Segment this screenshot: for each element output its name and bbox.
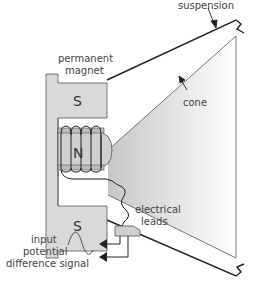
terminal-arrow-bottom (99, 252, 107, 262)
pole-n: N (73, 145, 83, 161)
label-permanent: permanent (58, 53, 113, 64)
label-leads: leads (141, 216, 168, 227)
label-electrical: electrical (135, 204, 181, 215)
cone (108, 36, 236, 258)
label-difference-signal: difference signal (6, 258, 89, 269)
pole-bottom-s: S (73, 218, 82, 234)
pole-top-s: S (73, 93, 82, 109)
label-suspension: suspension (178, 0, 234, 11)
label-cone: cone (183, 97, 207, 108)
label-magnet: magnet (65, 65, 104, 76)
label-potential: potential (23, 246, 67, 257)
loudspeaker-diagram: suspension permanent magnet cone electri… (0, 0, 256, 281)
label-input: input (31, 234, 57, 245)
north-pole-core (58, 128, 112, 170)
